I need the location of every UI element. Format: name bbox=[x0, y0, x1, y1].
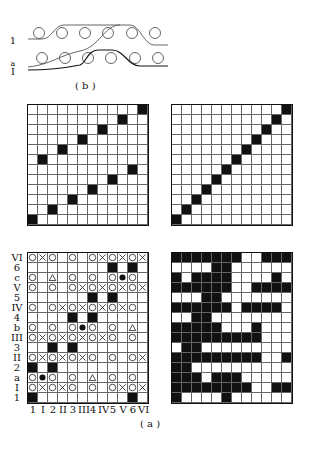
grid-cell-filled bbox=[212, 253, 222, 263]
cross-mark-icon bbox=[38, 353, 48, 363]
grid-cell-filled bbox=[272, 253, 282, 263]
grid-cell-filled bbox=[202, 253, 212, 263]
grid-cell bbox=[282, 145, 292, 155]
grid-cell bbox=[138, 363, 148, 373]
grid-cell-filled bbox=[272, 303, 282, 313]
grid-cell bbox=[282, 273, 292, 283]
grid-cell bbox=[262, 273, 272, 283]
grid-cell bbox=[118, 373, 128, 383]
grid-cell-filled bbox=[88, 313, 98, 323]
grid-cell bbox=[252, 155, 262, 165]
grid-cell bbox=[138, 333, 148, 343]
grid-cell bbox=[48, 175, 58, 185]
grid-cell bbox=[38, 283, 48, 293]
grid-cell bbox=[48, 115, 58, 125]
grid-cell bbox=[282, 115, 292, 125]
grid-cell bbox=[58, 313, 68, 323]
grid-cell bbox=[48, 293, 58, 303]
grid-cell bbox=[88, 135, 98, 145]
grid-cell-filled bbox=[202, 333, 212, 343]
grid-cell bbox=[128, 313, 138, 323]
grid-cell bbox=[282, 185, 292, 195]
grid-cell bbox=[242, 125, 252, 135]
grid-cell bbox=[78, 363, 88, 373]
grid-cell bbox=[78, 155, 88, 165]
grid-cell bbox=[232, 323, 242, 333]
grid-cell bbox=[138, 393, 148, 403]
grid-cell bbox=[98, 105, 108, 115]
grid-cell bbox=[78, 313, 88, 323]
grid-cell bbox=[262, 105, 272, 115]
grid-cell-filled bbox=[252, 303, 262, 313]
grid-cell-filled bbox=[272, 383, 282, 393]
cross-mark-icon bbox=[98, 333, 108, 343]
grid-cell bbox=[98, 273, 108, 283]
grid-cell bbox=[282, 165, 292, 175]
grid-cell bbox=[232, 175, 242, 185]
grid-cell-filled bbox=[192, 343, 202, 353]
grid-cell bbox=[128, 215, 138, 225]
grid-cell-filled bbox=[232, 155, 242, 165]
grid-cell bbox=[192, 185, 202, 195]
grid-cell bbox=[138, 205, 148, 215]
grid-cell bbox=[262, 185, 272, 195]
circle-mark-icon bbox=[28, 253, 38, 263]
grid-cell bbox=[28, 165, 38, 175]
grid-cell bbox=[58, 175, 68, 185]
grid-cell-filled bbox=[222, 165, 232, 175]
grid-cell-filled bbox=[88, 185, 98, 195]
cross-mark-icon bbox=[138, 353, 148, 363]
cross-mark-icon bbox=[118, 383, 128, 393]
grid-cell-filled bbox=[48, 343, 58, 353]
grid-cell bbox=[138, 125, 148, 135]
grid-cell bbox=[252, 215, 262, 225]
grid-cell bbox=[38, 125, 48, 135]
cross-mark-icon bbox=[38, 253, 48, 263]
grid-cell bbox=[58, 135, 68, 145]
grid-cell bbox=[138, 273, 148, 283]
circle-mark-icon bbox=[88, 383, 98, 393]
grid-cell bbox=[172, 105, 182, 115]
grid-cell bbox=[232, 125, 242, 135]
grid-cell bbox=[118, 293, 128, 303]
cross-mark-icon bbox=[118, 283, 128, 293]
grid-cell bbox=[192, 125, 202, 135]
grid-cell bbox=[232, 205, 242, 215]
column-label: 5 bbox=[108, 404, 118, 415]
grid-cell bbox=[242, 253, 252, 263]
circle-mark-icon bbox=[48, 323, 58, 333]
circle-mark-icon bbox=[128, 303, 138, 313]
grid-cell bbox=[58, 363, 68, 373]
grid-cell bbox=[88, 215, 98, 225]
grid-cell bbox=[252, 105, 262, 115]
grid-cell-filled bbox=[202, 323, 212, 333]
grid-cell bbox=[98, 215, 108, 225]
grid-cell bbox=[222, 105, 232, 115]
circle-mark-icon bbox=[108, 303, 118, 313]
grid-cell bbox=[212, 155, 222, 165]
grid-cell bbox=[232, 263, 242, 273]
grid-cell bbox=[262, 115, 272, 125]
grid-cell-filled bbox=[212, 263, 222, 273]
grid-cell bbox=[128, 135, 138, 145]
grid-cell bbox=[68, 205, 78, 215]
grid-cell bbox=[118, 105, 128, 115]
grid-cell bbox=[252, 313, 262, 323]
grid-cell bbox=[272, 323, 282, 333]
grid-cell bbox=[252, 293, 262, 303]
grid-cell-filled bbox=[252, 353, 262, 363]
grid-cell bbox=[282, 293, 292, 303]
grid-cell bbox=[28, 195, 38, 205]
grid-cell bbox=[202, 145, 212, 155]
grid-cell bbox=[78, 185, 88, 195]
circle-mark-icon bbox=[88, 273, 98, 283]
grid-cell bbox=[108, 363, 118, 373]
cross-mark-icon bbox=[78, 333, 88, 343]
grid-cell bbox=[172, 115, 182, 125]
column-label: III bbox=[78, 404, 88, 415]
grid-cell bbox=[38, 273, 48, 283]
grid-cell bbox=[38, 185, 48, 195]
grid-cell bbox=[262, 383, 272, 393]
grid-cell-filled bbox=[182, 333, 192, 343]
grid-cell bbox=[272, 393, 282, 403]
